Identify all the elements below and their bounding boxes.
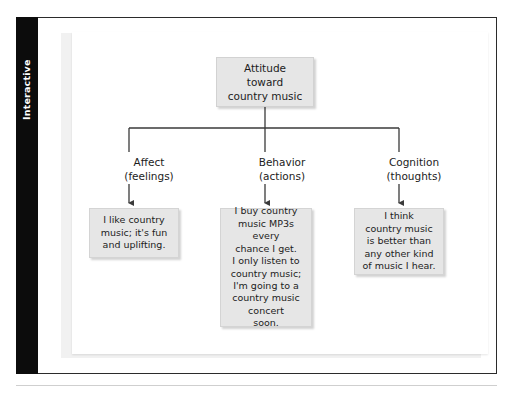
interactive-side-tab-label: Interactive	[16, 17, 38, 122]
interactive-side-tab[interactable]: Interactive	[16, 17, 38, 374]
diagram-root-node: Attitude toward country music	[216, 57, 314, 107]
bottom-divider	[16, 385, 497, 386]
diagram-branch-label-behavior: Behavior (actions)	[222, 155, 342, 183]
diagram-content-box-behavior: I buy country music MP3s every chance I …	[220, 208, 312, 327]
diagram-branch-label-affect: Affect (feelings)	[89, 155, 209, 183]
diagram-content-box-cognition: I think country music is better than any…	[354, 208, 444, 275]
figure-frame: Attitude toward country music Affect (fe…	[16, 17, 497, 374]
diagram-branch-label-cognition: Cognition (thoughts)	[354, 155, 474, 183]
attitude-diagram: Attitude toward country music Affect (fe…	[17, 18, 498, 375]
page-root: { "side_tab": { "label": "Interactive" }…	[0, 0, 515, 395]
diagram-content-box-affect: I like country music; it's fun and uplif…	[89, 208, 179, 258]
